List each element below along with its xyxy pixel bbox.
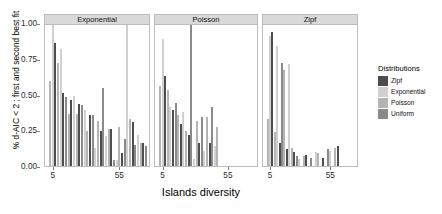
y-axis-tick-label: 0.00	[7, 163, 37, 171]
x-axis-tick-label: 5	[259, 171, 281, 180]
y-axis-tick-mark	[37, 131, 40, 132]
x-axis-tick-label: 55	[217, 171, 239, 180]
legend-swatch	[378, 98, 388, 108]
x-axis-tick-label: 55	[319, 171, 341, 180]
legend-title: Distributions	[378, 64, 442, 73]
legend-item-uniform[interactable]: Uniform	[378, 108, 442, 119]
x-axis-tick-mark	[163, 167, 164, 170]
x-axis-tick-mark	[228, 167, 229, 170]
x-axis-tick-mark	[53, 167, 54, 170]
chart-root: % d-AIC < 2 ; first and second best fit …	[0, 0, 442, 214]
bar	[337, 146, 339, 166]
legend-item-label: Poisson	[391, 99, 414, 106]
y-axis-tick-mark	[37, 60, 40, 61]
bar	[305, 155, 307, 166]
legend-item-zipf[interactable]: Zipf	[378, 75, 442, 86]
y-axis-tick-label: 1.00	[7, 20, 37, 28]
plot-area	[45, 25, 149, 166]
panel-poisson	[154, 24, 258, 167]
legend-item-label: Exponential	[391, 88, 425, 95]
legend-swatch	[378, 76, 388, 86]
x-axis-tick-mark	[330, 167, 331, 170]
y-axis-tick-labels: 0.000.250.500.751.00	[6, 0, 37, 214]
y-axis-tick-label: 0.25	[7, 127, 37, 135]
bar	[145, 146, 147, 166]
plot-area	[155, 25, 257, 166]
bar	[216, 127, 218, 166]
x-axis-tick-label: 55	[108, 171, 130, 180]
legend: Distributions ZipfExponentialPoissonUnif…	[378, 64, 442, 119]
x-axis-tick-label: 5	[42, 171, 64, 180]
y-axis-tick-mark	[37, 96, 40, 97]
y-axis-tick-mark	[37, 167, 40, 168]
legend-item-label: Uniform	[391, 110, 414, 117]
legend-swatch	[378, 87, 388, 97]
panel-exponential	[44, 24, 150, 167]
bar	[317, 153, 319, 166]
bar	[329, 151, 331, 167]
panel-zipf	[262, 24, 358, 167]
bar	[190, 25, 192, 166]
facet-strip-label: Exponential	[77, 15, 117, 24]
x-axis-label: Islands diversity	[44, 186, 358, 198]
plot-area	[263, 25, 357, 166]
legend-item-exponential[interactable]: Exponential	[378, 86, 442, 97]
x-axis-tick-mark	[270, 167, 271, 170]
legend-item-label: Zipf	[391, 77, 402, 84]
facet-strip-label: Zipf	[304, 15, 317, 24]
facet-strip-label: Poisson	[192, 15, 219, 24]
bar	[310, 158, 312, 166]
y-axis-tick-mark	[37, 24, 40, 25]
x-axis-tick-mark	[119, 167, 120, 170]
y-axis-tick-label: 0.50	[7, 92, 37, 100]
legend-item-poisson[interactable]: Poisson	[378, 97, 442, 108]
bar	[298, 159, 300, 166]
legend-items: ZipfExponentialPoissonUniform	[378, 75, 442, 119]
y-axis-tick-label: 0.75	[7, 56, 37, 64]
legend-swatch	[378, 109, 388, 119]
x-axis-tick-label: 5	[152, 171, 174, 180]
bar	[322, 158, 324, 166]
